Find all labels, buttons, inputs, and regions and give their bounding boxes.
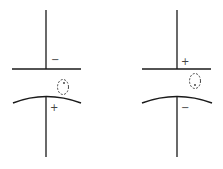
top-sign-right: + — [181, 56, 189, 67]
top-sign-left: − — [51, 54, 59, 65]
capacitor-left: − + — [12, 10, 81, 157]
bottom-plate-left — [13, 97, 81, 104]
bottom-sign-left: + — [50, 102, 58, 113]
capacitor-right: + − — [142, 10, 212, 157]
charge-cloud-left — [58, 80, 69, 95]
bottom-sign-right: − — [181, 102, 189, 113]
charge-dot-left — [63, 82, 65, 84]
diagram-canvas: − + + − — [0, 0, 223, 169]
charge-cloud-right — [190, 74, 201, 89]
charge-dot-right — [194, 84, 196, 86]
